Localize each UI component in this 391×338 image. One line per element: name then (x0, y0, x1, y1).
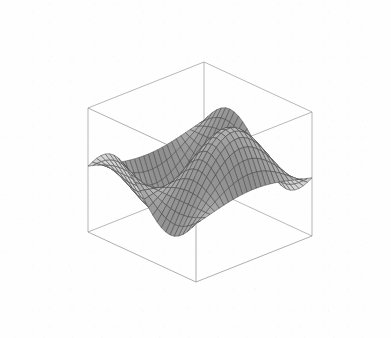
bounding-box-edge (88, 108, 196, 158)
bounding-box-edge (196, 236, 312, 282)
bounding-box-edge (88, 232, 196, 282)
bounding-box-edge (204, 62, 312, 112)
bounding-box-edge (88, 62, 204, 108)
surface-plot-figure: z = sin(x) * cos(y/1.45) (0, 0, 391, 338)
surface-plot-canvas: z = sin(x) * cos(y/1.45) (0, 0, 391, 338)
surface-mesh (88, 108, 312, 236)
